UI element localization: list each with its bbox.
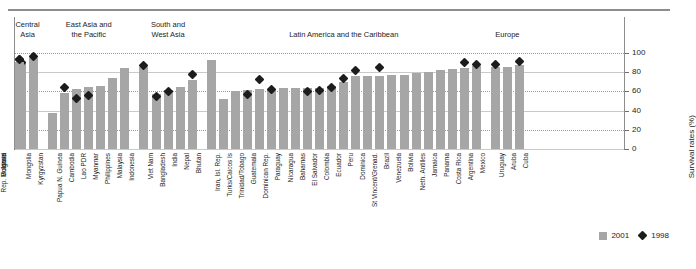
y-tick-mark	[625, 130, 629, 131]
category-label: Colombia	[323, 126, 330, 153]
marker-1998	[254, 75, 264, 85]
category-label: Paraguay	[274, 126, 281, 153]
category-label: Dominican Rep.	[262, 108, 269, 153]
y-tick-label-20: 20	[632, 125, 641, 134]
top-divider-rule	[8, 9, 670, 11]
y-tick-mark	[625, 111, 629, 112]
category-label: Argentina	[467, 126, 474, 153]
category-label: Nepal	[183, 136, 190, 153]
category-label: Panama	[443, 129, 450, 153]
category-label: Viet Nam	[147, 127, 154, 153]
category-label: Jamaica	[431, 129, 438, 153]
category-label: Philippines	[104, 122, 111, 153]
group-header: South and West Asia	[108, 20, 228, 39]
category-label: Myanmar	[92, 126, 99, 153]
y-tick-mark	[625, 72, 629, 73]
category-label: Venezuela	[395, 123, 402, 153]
marker-1998	[459, 58, 469, 68]
y-tick-mark	[625, 91, 629, 92]
category-label: Bolivia	[407, 134, 414, 153]
category-label: Lao PDR	[80, 127, 87, 153]
y-tick-mark	[625, 53, 629, 54]
category-label: Trinidad/Tobago	[238, 107, 245, 153]
category-label: Bangladesh	[159, 119, 166, 153]
marker-1998	[60, 83, 70, 93]
y-tick-label-100: 100	[632, 48, 645, 57]
category-label: Ecuador	[335, 129, 342, 153]
marker-1998	[187, 69, 197, 79]
category-label: Cuba	[522, 138, 529, 153]
category-label: India	[171, 139, 178, 153]
category-label: Nicaragua	[287, 124, 294, 153]
category-label: Turks/Caicos Is	[226, 109, 233, 153]
category-label: Brazil	[383, 137, 390, 153]
category-label: Mongolia	[25, 127, 32, 153]
legend-bar-swatch-icon	[599, 232, 607, 240]
bar-slot	[15, 53, 24, 149]
category-label: Bulgaria	[0, 130, 7, 153]
category-label: Bhutan	[195, 133, 202, 153]
bar-slot	[176, 53, 185, 149]
y-tick-label-60: 60	[632, 86, 641, 95]
category-label: Guatemala	[250, 122, 257, 153]
legend-label-1998: 1998	[651, 231, 669, 240]
category-label: Bahamas	[299, 126, 306, 153]
legend-label-2001: 2001	[611, 231, 629, 240]
category-label: Kyrgyzstan	[37, 121, 44, 153]
category-label: Indonesia	[128, 125, 135, 153]
category-label: Papua N. Guinea	[56, 104, 63, 153]
marker-1998	[351, 65, 361, 75]
legend: 2001 1998	[599, 231, 669, 240]
category-label: Iran, Isl. Rep.	[214, 115, 221, 153]
category-label: Cambodia	[68, 124, 75, 153]
category-label: El Salvador	[311, 120, 318, 153]
y-tick-label-40: 40	[632, 106, 641, 115]
bar-2001	[15, 62, 24, 149]
category-label: Aruba	[510, 136, 517, 153]
legend-diamond-swatch-icon	[638, 231, 648, 241]
y-tick-label-80: 80	[632, 67, 641, 76]
y-axis-title: Survival rates (%)	[687, 115, 696, 178]
category-label: Uruguay	[498, 129, 505, 153]
bar-slot	[515, 53, 524, 149]
category-label: Dominica	[359, 126, 366, 153]
category-label: St Vincent/Grenad.	[371, 99, 378, 153]
marker-1998	[375, 62, 385, 72]
group-header: Latin America and the Caribbean	[284, 30, 404, 40]
legend-item-1998: 1998	[638, 231, 669, 240]
category-label: Costa Rica	[455, 122, 462, 153]
legend-item-2001: 2001	[599, 231, 629, 240]
y-tick-label-0: 0	[632, 144, 636, 153]
category-label: Malaysia	[116, 128, 123, 153]
category-label: Mexico	[479, 133, 486, 153]
group-header: Europe	[447, 30, 567, 40]
y-tick-mark	[625, 149, 629, 150]
category-label: Neth. Antilles	[419, 116, 426, 153]
category-label: Peru	[347, 140, 354, 154]
